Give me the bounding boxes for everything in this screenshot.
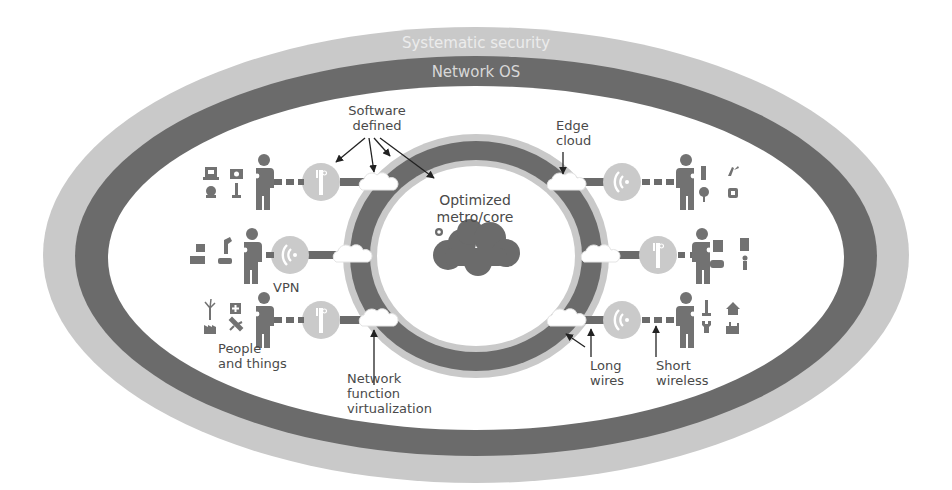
long-wires-label: Long wires [590, 358, 624, 388]
vpn-label: VPN [273, 280, 299, 295]
software-defined-label: Software defined [342, 103, 412, 133]
nfv-label: Network function virtualization [347, 371, 432, 416]
optimized-metro-core-label: Optimized metro/core [420, 192, 530, 226]
antenna-mast-icon [302, 301, 340, 339]
wifi-access-icon [603, 163, 641, 201]
webcam-icon [206, 186, 216, 198]
network-os-label: Network OS [376, 63, 576, 81]
network-architecture-diagram: Systematic security Network OS Software … [0, 0, 952, 490]
short-wireless-label: Short wireless [656, 358, 708, 388]
watch-icon [728, 188, 738, 198]
box-icon [196, 244, 205, 252]
phone-icon [701, 166, 706, 180]
server-icon [740, 238, 749, 251]
people-and-things-label: People and things [218, 341, 287, 371]
truck-icon [190, 256, 205, 264]
medical-cross-icon [230, 303, 241, 314]
car-icon [710, 260, 724, 268]
person-small-icon [743, 256, 748, 271]
scale-icon [218, 258, 232, 264]
monitor-icon [203, 167, 219, 180]
factory-icon [204, 325, 216, 334]
antenna-mast-icon [302, 163, 340, 201]
edge-cloud-label: Edge cloud [556, 118, 591, 148]
antenna-mast-icon [639, 236, 677, 274]
printer-icon [713, 240, 723, 252]
camera-icon [230, 169, 243, 179]
wifi-access-icon [271, 236, 309, 274]
wifi-access-icon [603, 301, 641, 339]
systematic-security-label: Systematic security [376, 34, 576, 52]
